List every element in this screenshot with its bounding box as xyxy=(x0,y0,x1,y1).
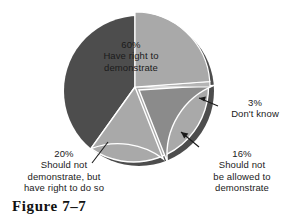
figure-caption: Figure 7–7 xyxy=(12,198,86,215)
pie-label-should-not: 20% Should not demonstrate, but have rig… xyxy=(2,148,126,194)
pie-label-dont-know: 3% Don't know xyxy=(222,97,288,120)
figure-container: 60% Have right to demonstrate 3% Don't k… xyxy=(0,0,290,223)
pie-label-have-right: 60% Have right to demonstrate xyxy=(78,39,184,73)
pie-label-not-allowed: 16% Should not be allowed to demonstrate xyxy=(196,148,288,194)
